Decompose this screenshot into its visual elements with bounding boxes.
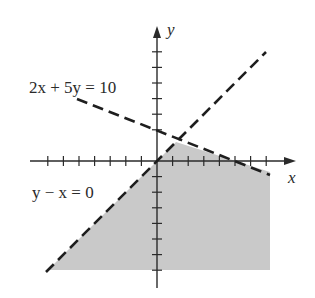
label-line-y-minus-x: y − x = 0 [32,183,94,202]
inequality-graph: x y 2x + 5y = 10 y − x = 0 [0,0,315,298]
x-axis-label: x [287,168,296,187]
label-line-2x-plus-5y: 2x + 5y = 10 [29,78,116,97]
y-axis-label: y [165,20,175,39]
y-axis-arrow-icon [153,26,161,38]
x-axis-arrow-icon [284,157,296,165]
